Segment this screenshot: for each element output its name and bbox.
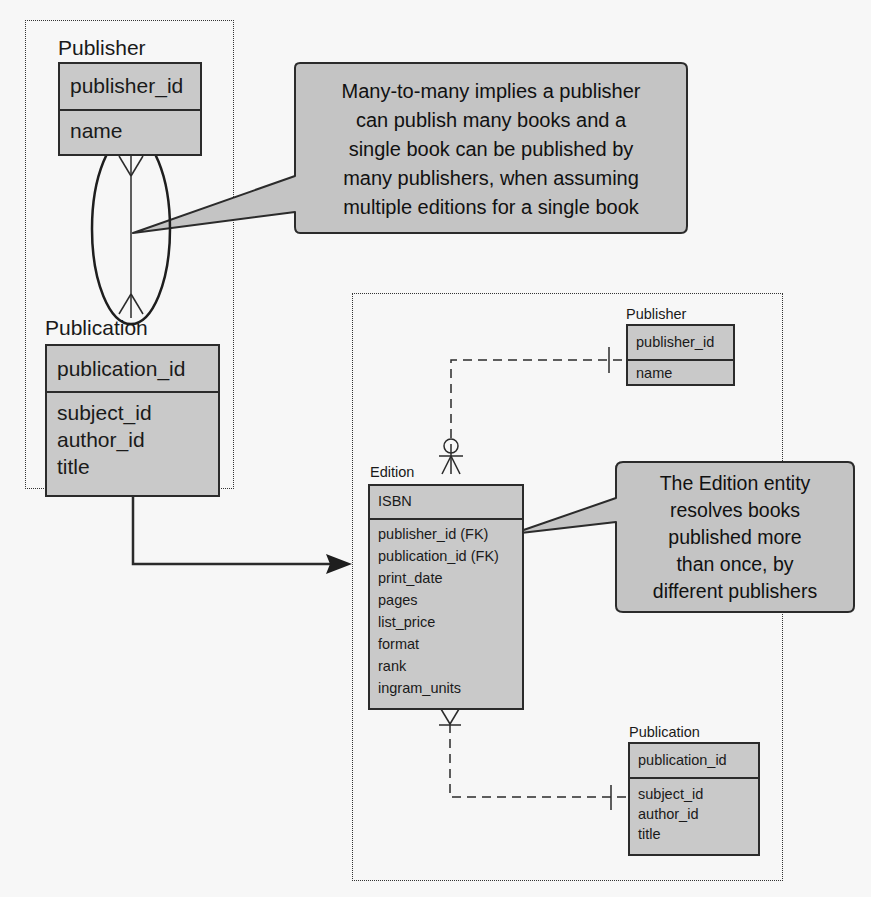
edition-publisher-relationship (439, 347, 626, 474)
left-publisher-title: Publisher (58, 36, 146, 60)
left-publisher-attr: name (70, 111, 200, 151)
left-publication-attrs: subject_id author_id title (47, 393, 218, 480)
transform-arrow (133, 489, 352, 574)
left-publication-attr: title (57, 453, 218, 480)
right-publication-title: Publication (629, 724, 700, 740)
edition-attrs: publisher_id (FK) publication_id (FK) pr… (370, 520, 522, 699)
edition-attr: pages (378, 589, 522, 611)
left-publisher-entity[interactable]: publisher_id name (58, 62, 202, 156)
right-publisher-attrs: name (628, 361, 733, 385)
callout-line: single book can be published by (298, 135, 684, 164)
edition-pk: ISBN (370, 486, 522, 520)
edition-entity[interactable]: ISBN publisher_id (FK) publication_id (F… (368, 484, 524, 710)
callout-many-to-many-text: Many-to-many implies a publisher can pub… (298, 77, 684, 222)
left-publication-pk: publication_id (47, 346, 218, 393)
edition-title: Edition (370, 464, 414, 480)
edition-attr: ingram_units (378, 677, 522, 699)
left-publication-attr: subject_id (57, 399, 218, 426)
right-publication-attr: author_id (638, 804, 758, 824)
right-publisher-title: Publisher (626, 306, 686, 322)
left-publication-attr: author_id (57, 426, 218, 453)
left-publisher-pk: publisher_id (60, 64, 200, 111)
left-publication-title: Publication (45, 316, 148, 340)
right-publication-pk: publication_id (630, 744, 758, 779)
edition-attr: list_price (378, 611, 522, 633)
edition-attr: rank (378, 655, 522, 677)
right-publisher-attr: name (636, 361, 733, 385)
callout-line: resolves books (618, 497, 852, 524)
edition-attr: publisher_id (FK) (378, 523, 522, 545)
callout-line: multiple editions for a single book (298, 193, 684, 222)
many-to-many-relationship-line (119, 156, 143, 318)
right-publication-attrs: subject_id author_id title (630, 779, 758, 844)
callout-line: Many-to-many implies a publisher (298, 77, 684, 106)
edition-attr: print_date (378, 567, 522, 589)
right-publisher-pk: publisher_id (628, 326, 733, 361)
right-publication-entity[interactable]: publication_id subject_id author_id titl… (628, 742, 760, 856)
callout-edition-text: The Edition entity resolves books publis… (618, 470, 852, 605)
callout-line: The Edition entity (618, 470, 852, 497)
callout-line: published more (618, 524, 852, 551)
left-publisher-attrs: name (60, 111, 200, 151)
right-publisher-entity[interactable]: publisher_id name (626, 324, 735, 386)
right-publication-attr: subject_id (638, 784, 758, 804)
edition-publication-relationship (439, 709, 628, 810)
edition-attr: publication_id (FK) (378, 545, 522, 567)
callout-line: than once, by (618, 551, 852, 578)
edition-attr: format (378, 633, 522, 655)
callout-line: can publish many books and a (298, 106, 684, 135)
callout-line: different publishers (618, 578, 852, 605)
figure-caption-clipped (0, 884, 600, 897)
left-publication-entity[interactable]: publication_id subject_id author_id titl… (45, 344, 220, 497)
right-publication-attr: title (638, 824, 758, 844)
callout-line: many publishers, when assuming (298, 164, 684, 193)
